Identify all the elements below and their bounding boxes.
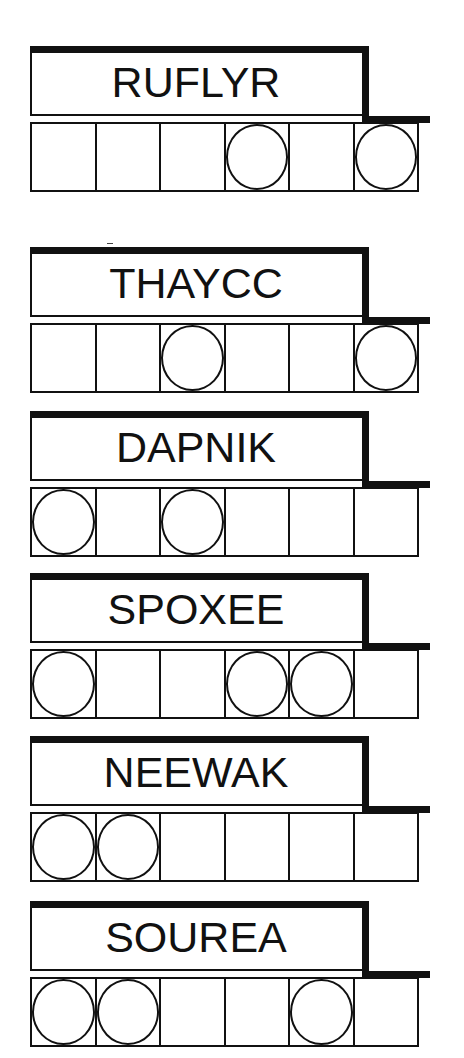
answer-cell-3[interactable] — [159, 323, 226, 393]
circled-letter-marker-icon — [161, 325, 224, 391]
answer-cell-5[interactable] — [288, 323, 355, 393]
answer-cell-1[interactable] — [30, 323, 97, 393]
answer-cell-6[interactable] — [353, 122, 420, 192]
answer-cell-2[interactable] — [95, 487, 162, 557]
header-shadow-bar — [362, 247, 369, 324]
circled-letter-marker-icon — [97, 979, 160, 1045]
answer-cell-6[interactable] — [353, 977, 420, 1047]
jumble-puzzle-5: NEEWAK — [30, 736, 430, 882]
answer-cell-4[interactable] — [224, 649, 291, 719]
answer-cell-2[interactable] — [95, 812, 162, 882]
answer-cell-1[interactable] — [30, 487, 97, 557]
answer-cell-6[interactable] — [353, 323, 420, 393]
answer-cell-1[interactable] — [30, 977, 97, 1047]
circled-letter-marker-icon — [32, 651, 95, 717]
circled-letter-marker-icon — [226, 124, 289, 190]
answer-cell-5[interactable] — [288, 122, 355, 192]
header-shadow-bar — [362, 46, 369, 123]
header-shadow-bar — [362, 411, 369, 488]
jumble-puzzle-4: SPOXEE — [30, 573, 430, 719]
header-shadow-bar — [362, 573, 369, 650]
answer-cell-2[interactable] — [95, 649, 162, 719]
circled-letter-marker-icon — [32, 814, 95, 880]
answer-cell-5[interactable] — [288, 649, 355, 719]
answer-cell-3[interactable] — [159, 487, 226, 557]
circled-letter-marker-icon — [161, 489, 224, 555]
answer-cell-3[interactable] — [159, 812, 226, 882]
answer-cell-2[interactable] — [95, 122, 162, 192]
answer-cell-3[interactable] — [159, 977, 226, 1047]
answer-cell-2[interactable] — [95, 977, 162, 1047]
jumble-puzzle-3: DAPNIK — [30, 411, 430, 557]
header-shadow-bar — [362, 736, 369, 813]
jumble-puzzle-2: THAYCC — [30, 247, 430, 393]
answer-cells — [30, 487, 430, 557]
circled-letter-marker-icon — [226, 651, 289, 717]
scrambled-word: RUFLYR — [30, 46, 362, 116]
answer-cell-6[interactable] — [353, 812, 420, 882]
stray-mark — [107, 243, 113, 244]
answer-cell-6[interactable] — [353, 487, 420, 557]
answer-cell-5[interactable] — [288, 487, 355, 557]
circled-letter-marker-icon — [32, 979, 95, 1045]
answer-cell-5[interactable] — [288, 812, 355, 882]
scrambled-word: SOUREA — [30, 901, 362, 971]
circled-letter-marker-icon — [290, 651, 353, 717]
circled-letter-marker-icon — [355, 124, 418, 190]
circled-letter-marker-icon — [290, 979, 353, 1045]
answer-cells — [30, 649, 430, 719]
answer-cells — [30, 323, 430, 393]
answer-cell-4[interactable] — [224, 977, 291, 1047]
answer-cell-1[interactable] — [30, 649, 97, 719]
answer-cell-1[interactable] — [30, 812, 97, 882]
circled-letter-marker-icon — [355, 325, 418, 391]
scrambled-word: SPOXEE — [30, 573, 362, 643]
answer-cell-5[interactable] — [288, 977, 355, 1047]
circled-letter-marker-icon — [97, 814, 160, 880]
answer-cells — [30, 977, 430, 1047]
scrambled-word: THAYCC — [30, 247, 362, 317]
answer-cell-4[interactable] — [224, 812, 291, 882]
answer-cell-1[interactable] — [30, 122, 97, 192]
answer-cell-4[interactable] — [224, 323, 291, 393]
answer-cell-4[interactable] — [224, 487, 291, 557]
answer-cell-3[interactable] — [159, 649, 226, 719]
answer-cells — [30, 812, 430, 882]
jumble-puzzle-6: SOUREA — [30, 901, 430, 1047]
answer-cells — [30, 122, 430, 192]
scrambled-word: NEEWAK — [30, 736, 362, 806]
answer-cell-3[interactable] — [159, 122, 226, 192]
jumble-puzzle-1: RUFLYR — [30, 46, 430, 192]
circled-letter-marker-icon — [32, 489, 95, 555]
answer-cell-4[interactable] — [224, 122, 291, 192]
answer-cell-6[interactable] — [353, 649, 420, 719]
header-shadow-bar — [362, 901, 369, 978]
answer-cell-2[interactable] — [95, 323, 162, 393]
scrambled-word: DAPNIK — [30, 411, 362, 481]
